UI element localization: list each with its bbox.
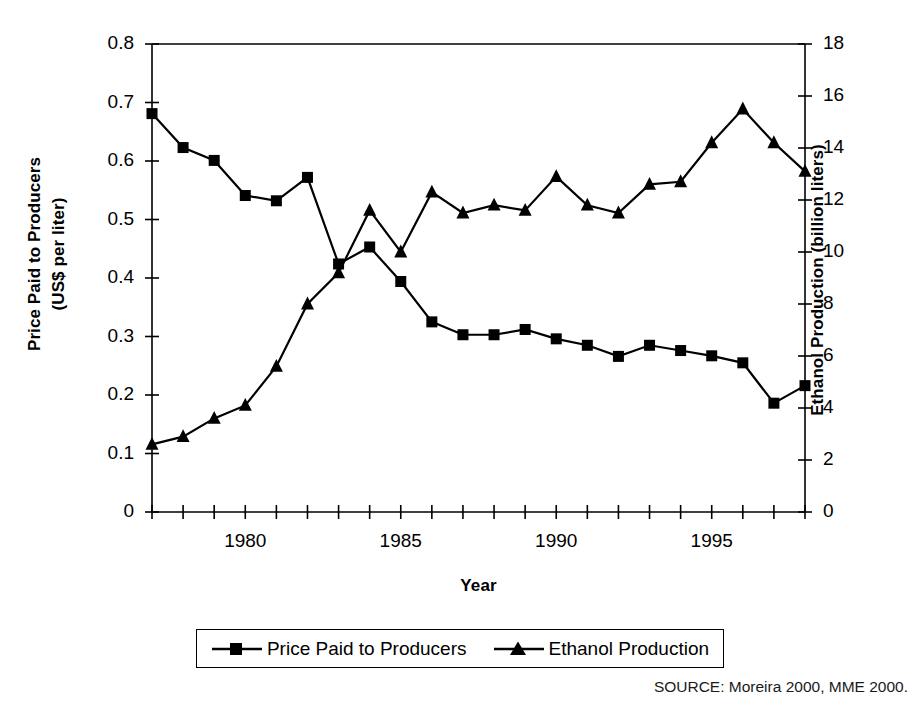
y-axis-left-title: Price Paid to Producers (US$ per liter)	[23, 89, 71, 419]
y-axis-left-tick-label: 0.4	[74, 266, 134, 288]
legend-label-price: Price Paid to Producers	[267, 638, 467, 660]
data-point-square-marker	[644, 340, 655, 351]
data-point-square-marker	[395, 276, 406, 287]
y-axis-left-tick-label: 0.2	[74, 383, 134, 405]
chart-plot-area	[0, 0, 922, 713]
x-axis-title: Year	[152, 576, 805, 596]
y-axis-left-tick-label: 0	[74, 500, 134, 522]
data-point-square-marker	[706, 350, 717, 361]
x-axis-tick-label: 1995	[672, 530, 752, 552]
data-point-square-marker	[582, 340, 593, 351]
y-axis-left-tick-label: 0.1	[74, 442, 134, 464]
data-point-square-marker	[737, 357, 748, 368]
y-axis-right-title: Ethanol Production (billion liters)	[806, 70, 830, 490]
y-axis-right-tick-label: 12	[823, 188, 883, 210]
data-point-square-marker	[147, 108, 158, 119]
data-point-square-marker	[271, 195, 282, 206]
data-point-square-marker	[613, 351, 624, 362]
y-axis-right-tick-label: 0	[823, 500, 883, 522]
legend-triangle-marker-icon	[493, 639, 545, 659]
data-point-square-marker	[240, 190, 251, 201]
y-axis-right-tick-label: 6	[823, 344, 883, 366]
data-point-square-marker	[426, 316, 437, 327]
y-axis-right-tick-label: 18	[823, 32, 883, 54]
data-point-triangle-marker	[177, 429, 190, 442]
data-point-square-marker	[457, 329, 468, 340]
chart-figure: Price Paid to Producers (US$ per liter) …	[0, 0, 922, 713]
legend-item-price[interactable]: Price Paid to Producers	[211, 638, 467, 660]
legend-square-marker-icon	[211, 639, 263, 659]
legend-label-ethanol: Ethanol Production	[549, 638, 710, 660]
x-axis-tick-label: 1985	[361, 530, 441, 552]
data-point-square-marker	[520, 324, 531, 335]
x-axis-tick-label: 1990	[516, 530, 596, 552]
y-axis-left-tick-label: 0.5	[74, 208, 134, 230]
data-point-triangle-marker	[550, 169, 563, 182]
y-axis-right-tick-label: 14	[823, 136, 883, 158]
y-axis-right-tick-label: 2	[823, 448, 883, 470]
data-point-triangle-marker	[363, 203, 376, 216]
data-point-triangle-marker	[736, 102, 749, 115]
y-axis-right-tick-label: 8	[823, 292, 883, 314]
y-axis-left-tick-label: 0.8	[74, 32, 134, 54]
data-point-square-marker	[551, 333, 562, 344]
data-point-triangle-marker	[425, 185, 438, 198]
data-point-square-marker	[489, 329, 500, 340]
y-axis-left-tick-label: 0.7	[74, 91, 134, 113]
source-note: SOURCE: Moreira 2000, MME 2000.	[420, 678, 908, 696]
y-axis-right-tick-label: 16	[823, 84, 883, 106]
data-point-square-marker	[675, 345, 686, 356]
series-line-2	[152, 109, 805, 444]
data-point-square-marker	[178, 142, 189, 153]
legend-item-ethanol[interactable]: Ethanol Production	[493, 638, 710, 660]
data-point-square-marker	[768, 398, 779, 409]
data-point-square-marker	[364, 241, 375, 252]
y-axis-right-tick-label: 4	[823, 396, 883, 418]
data-point-triangle-marker	[488, 198, 501, 211]
x-axis-tick-label: 1980	[205, 530, 285, 552]
y-axis-left-tick-label: 0.3	[74, 325, 134, 347]
y-axis-right-tick-label: 10	[823, 240, 883, 262]
data-point-square-marker	[302, 172, 313, 183]
data-point-triangle-marker	[270, 359, 283, 372]
data-point-square-marker	[209, 155, 220, 166]
chart-legend: Price Paid to Producers Ethanol Producti…	[196, 629, 724, 668]
y-axis-left-tick-label: 0.6	[74, 149, 134, 171]
